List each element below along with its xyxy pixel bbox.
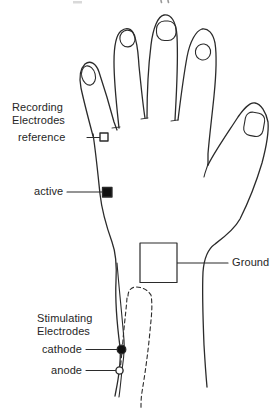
- index-fingernail: [194, 43, 211, 61]
- anode-electrode-marker: [116, 367, 123, 374]
- active-label: active: [34, 185, 63, 198]
- thumb-fingernail: [243, 111, 266, 138]
- hand-outline-little-finger: [80, 62, 117, 136]
- nerve-path-dashed-right: [128, 287, 152, 408]
- recording-electrodes-heading: Recording Electrodes: [12, 101, 65, 127]
- stimulating-electrodes-heading: Stimulating Electrodes: [37, 312, 93, 338]
- reference-label: reference: [18, 131, 65, 144]
- cathode-label: cathode: [42, 343, 82, 356]
- page-crop-text-remnant: [161, 1, 169, 3]
- ground-label: Ground: [232, 256, 269, 269]
- figure-canvas: Recording Electrodes reference active Gr…: [0, 0, 280, 413]
- middle-fingernail: [157, 21, 177, 41]
- hand-outline-ring-finger: [114, 29, 145, 128]
- thumb-web-crease: [204, 164, 208, 177]
- hand-outline-middle-finger: [147, 15, 177, 120]
- anode-label: anode: [51, 364, 82, 377]
- ground-electrode-marker: [140, 243, 177, 283]
- page-crop-smudge: [73, 1, 82, 4]
- finger-web-crease: [112, 118, 178, 128]
- cathode-electrode-marker: [117, 345, 126, 354]
- hand-outline-left-edge: [93, 134, 120, 396]
- reference-electrode-marker: [100, 133, 108, 141]
- active-electrode-marker: [103, 188, 113, 198]
- ring-fingernail: [119, 30, 135, 48]
- hand-outline-thumb-right-edge: [203, 103, 269, 387]
